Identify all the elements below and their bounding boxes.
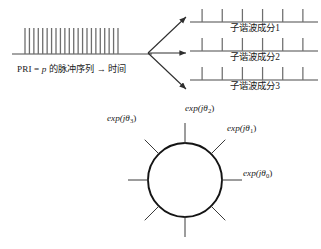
phasor-label-theta3-body: exp(jθ (107, 113, 130, 123)
phasor-label-theta2-tail: ) (211, 103, 214, 113)
pulse-train-caption: PRI = p 的脉冲序列 → 时间 (17, 65, 127, 74)
phasor-label-theta1-sub: 1 (250, 127, 253, 134)
phasor-label-theta1-body: exp(jθ (227, 123, 250, 133)
phasor-label-theta3: exp(jθ3) (107, 114, 136, 123)
phasor-label-theta2: exp(jθ2) (185, 104, 214, 113)
pulse-train-caption-prefix: PRI = (17, 64, 42, 74)
subharmonic-label-1: 子谐波成分1 (190, 24, 320, 33)
phasor-spoke-135 (145, 140, 160, 155)
phasor-label-theta1: exp(jθ1) (227, 124, 256, 133)
pulse-train-caption-suffix: 的脉冲序列 → 时间 (46, 64, 126, 74)
phasor-spoke-45 (210, 140, 225, 155)
phasor-label-theta3-tail: ) (133, 113, 136, 123)
fanout-arrows-group (148, 17, 186, 89)
phasor-label-theta2-sub: 2 (208, 107, 211, 114)
subharmonic-label-3: 子谐波成分3 (190, 82, 320, 91)
phasor-spokes (128, 123, 242, 237)
figure-canvas (0, 0, 321, 249)
phasor-circle-group (128, 123, 242, 237)
fanout-arrow (148, 53, 186, 89)
fanout-arrow (148, 17, 186, 53)
phasor-spoke-225 (145, 205, 160, 220)
pulse-train-ticks (25, 28, 118, 54)
phasor-spoke-315 (210, 205, 225, 220)
phasor-label-theta0: exp(jθ0) (243, 169, 272, 178)
figure-root: PRI = p 的脉冲序列 → 时间 子谐波成分1 子谐波成分2 子谐波成分3 … (0, 0, 321, 249)
phasor-label-theta1-tail: ) (253, 123, 256, 133)
pulse-train-group (12, 28, 152, 54)
phasor-label-theta0-tail: ) (269, 168, 272, 178)
subharmonic-panels-group (190, 9, 318, 80)
phasor-label-theta0-body: exp(jθ (243, 168, 266, 178)
phasor-label-theta3-sub: 3 (130, 117, 133, 124)
phasor-label-theta2-body: exp(jθ (185, 103, 208, 113)
subharmonic-label-2: 子谐波成分2 (190, 53, 320, 62)
phasor-label-theta0-sub: 0 (266, 172, 269, 179)
